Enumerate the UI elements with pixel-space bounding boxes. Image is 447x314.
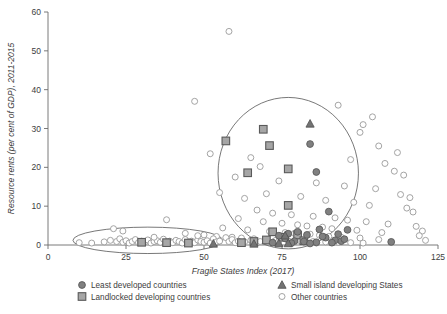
x-tick-label: 0: [46, 252, 51, 262]
legend-item[interactable]: Landlocked developing countries: [78, 293, 210, 302]
data-point: [107, 237, 113, 243]
data-point: [201, 232, 207, 238]
data-point: [192, 98, 198, 104]
data-point: [300, 238, 307, 245]
data-point: [101, 239, 107, 245]
data-point: [76, 240, 82, 246]
data-point: [413, 223, 419, 229]
data-point: [416, 233, 422, 239]
scatter-chart-figure: 02550751001250102030405060Fragile States…: [0, 0, 447, 314]
legend-item[interactable]: Least developed countries: [79, 281, 187, 290]
data-point: [278, 281, 286, 289]
legend-label: Landlocked developing countries: [91, 293, 210, 302]
data-point: [89, 240, 95, 246]
data-point: [217, 190, 223, 196]
data-point: [279, 220, 285, 226]
y-tick-label: 40: [32, 85, 42, 95]
data-point: [376, 237, 382, 243]
data-point: [373, 186, 379, 192]
data-point: [295, 222, 301, 228]
data-point: [269, 239, 276, 246]
data-point: [379, 230, 385, 236]
y-tick-label: 10: [32, 201, 42, 211]
data-point: [410, 209, 416, 215]
data-point: [217, 238, 223, 244]
data-point: [279, 294, 285, 300]
data-point: [398, 192, 404, 198]
data-point: [242, 195, 248, 201]
data-point: [313, 239, 320, 246]
data-point: [298, 193, 304, 199]
data-point: [335, 102, 341, 108]
data-point: [313, 169, 320, 176]
data-point: [366, 202, 372, 208]
data-point: [307, 141, 314, 148]
data-point: [306, 120, 314, 128]
data-point: [335, 231, 342, 238]
data-point: [260, 219, 266, 225]
data-point: [385, 221, 391, 227]
data-point: [323, 197, 329, 203]
data-point: [423, 237, 429, 243]
data-point: [185, 239, 193, 247]
data-point: [316, 226, 323, 233]
data-point: [245, 227, 251, 233]
data-point: [111, 226, 117, 232]
y-tick-label: 20: [32, 162, 42, 172]
data-point: [120, 228, 126, 234]
data-point: [288, 212, 294, 218]
data-point: [388, 238, 395, 245]
y-tick-label: 60: [32, 7, 42, 17]
data-point: [360, 240, 366, 246]
chart-legend: Least developed countriesLandlocked deve…: [78, 281, 402, 302]
data-point: [164, 217, 170, 223]
legend-label: Small island developing States: [291, 281, 403, 290]
data-point: [360, 122, 366, 128]
data-point: [348, 157, 354, 163]
x-tick-label: 75: [277, 252, 287, 262]
data-point: [182, 230, 188, 236]
data-point: [270, 210, 276, 216]
data-point: [344, 226, 351, 233]
data-point: [341, 236, 348, 243]
y-axis-title: Resource rents (per cent of GDP), 2011-2…: [6, 43, 16, 215]
data-point: [248, 155, 254, 161]
data-point: [244, 169, 252, 177]
x-tick-label: 125: [431, 252, 445, 262]
data-point: [294, 228, 301, 235]
data-point: [304, 223, 310, 229]
data-point: [304, 232, 311, 239]
data-point: [307, 240, 314, 247]
data-point: [263, 191, 269, 197]
data-point: [363, 219, 369, 225]
data-point: [329, 226, 335, 232]
data-point: [78, 293, 86, 301]
data-point: [348, 240, 354, 246]
legend-item[interactable]: Other countries: [279, 293, 347, 302]
data-point: [276, 178, 282, 184]
data-point: [319, 233, 326, 240]
data-point: [266, 142, 274, 150]
data-point: [284, 202, 292, 210]
data-point: [325, 208, 332, 215]
x-axis-title: Fragile States Index (2017): [192, 266, 295, 276]
data-point: [382, 160, 388, 166]
data-point: [329, 239, 336, 246]
data-point: [226, 28, 232, 34]
legend-item[interactable]: Small island developing States: [278, 281, 403, 290]
data-point: [79, 282, 86, 289]
x-tick-label: 100: [353, 252, 367, 262]
y-tick-label: 50: [32, 46, 42, 56]
data-point: [391, 168, 397, 174]
data-point: [369, 114, 375, 120]
y-tick-label: 30: [32, 124, 42, 134]
data-point: [394, 150, 400, 156]
data-point: [138, 238, 146, 246]
data-point: [376, 143, 382, 149]
x-tick-label: 50: [199, 252, 209, 262]
legend-label: Other countries: [291, 293, 347, 302]
data-point: [238, 239, 246, 247]
data-point: [354, 227, 360, 233]
data-point: [259, 125, 267, 133]
data-point: [235, 216, 241, 222]
